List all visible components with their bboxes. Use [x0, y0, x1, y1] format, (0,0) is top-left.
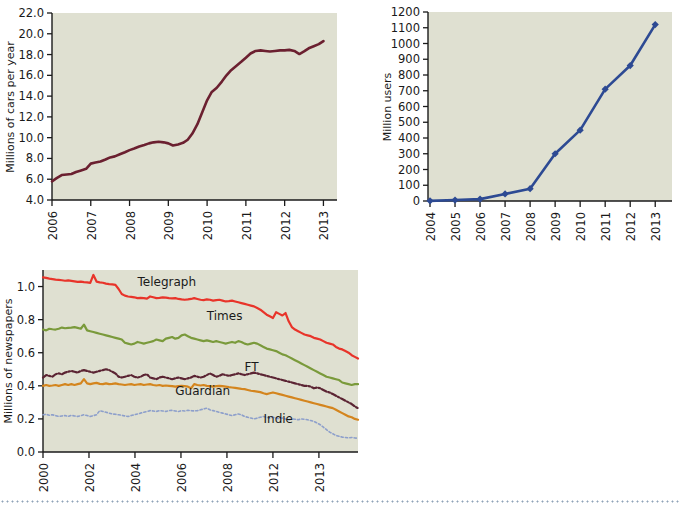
million-users-svg: 0100200300400500600700800900100011001200… [377, 0, 681, 250]
y-tick-label: 1.0 [17, 280, 35, 294]
y-tick-label: 14.0 [18, 89, 44, 103]
x-tick-label: 2008 [124, 211, 138, 240]
plot-background [428, 12, 672, 201]
y-tick-label: 1100 [391, 21, 420, 35]
x-tick-label: 2010 [201, 211, 215, 240]
y-tick-label: 0.4 [17, 379, 35, 393]
x-tick-label: 2013 [313, 463, 327, 492]
x-tick-label: 2012 [624, 212, 638, 241]
x-tick-label: 2002 [83, 463, 97, 492]
x-tick-label: 2004 [424, 212, 438, 241]
x-axis-ticks: 20062007200820092010201120122013 [46, 200, 331, 240]
y-axis-title: Millions of newspapers [2, 298, 15, 423]
y-tick-label: 1200 [391, 5, 420, 19]
y-axis-ticks: 4.06.08.010.012.014.016.018.020.022.0 [18, 6, 52, 207]
x-tick-label: 2009 [162, 211, 176, 240]
y-tick-label: 500 [398, 115, 420, 129]
chart-millions-of-newspapers: 0.00.20.40.60.81.0 200020022004200620082… [0, 262, 380, 507]
x-tick-label: 2010 [574, 212, 588, 241]
x-tick-label: 2012 [267, 463, 281, 492]
x-tick-label: 2006 [175, 463, 189, 492]
x-tick-label: 2007 [499, 212, 513, 241]
plot-background [52, 13, 337, 200]
chart-cars-per-year: 4.06.08.010.012.014.016.018.020.022.0 20… [0, 0, 350, 250]
y-tick-label: 16.0 [18, 68, 44, 82]
x-tick-label: 2011 [240, 211, 254, 240]
y-tick-label: 900 [398, 52, 420, 66]
y-tick-label: 600 [398, 100, 420, 114]
x-tick-label: 2013 [317, 211, 331, 240]
x-tick-label: 2006 [474, 212, 488, 241]
plot-background [43, 270, 358, 452]
y-tick-label: 8.0 [26, 151, 44, 165]
y-tick-label: 18.0 [18, 48, 44, 62]
x-tick-label: 2006 [46, 211, 60, 240]
y-axis-title: Million users [381, 72, 394, 141]
series-label-telegraph: Telegraph [137, 275, 197, 289]
y-tick-label: 0.2 [17, 412, 35, 426]
y-tick-label: 10.0 [18, 131, 44, 145]
y-tick-label: 4.0 [26, 193, 44, 207]
x-tick-label: 2004 [129, 463, 143, 492]
y-axis-ticks: 0.00.20.40.60.81.0 [17, 280, 43, 459]
y-tick-label: 22.0 [18, 6, 44, 20]
dotted-separator-rule [0, 500, 681, 503]
y-axis-ticks: 0100200300400500600700800900100011001200 [391, 5, 428, 208]
y-tick-label: 0.6 [17, 346, 35, 360]
y-tick-label: 6.0 [26, 172, 44, 186]
y-tick-label: 0.0 [17, 445, 35, 459]
x-axis-ticks: 2000200220042006200820122013 [37, 452, 327, 492]
y-tick-label: 800 [398, 68, 420, 82]
y-tick-label: 300 [398, 147, 420, 161]
series-label-ft: FT [245, 360, 260, 374]
y-tick-label: 0.8 [17, 313, 35, 327]
cars-per-year-svg: 4.06.08.010.012.014.016.018.020.022.0 20… [0, 0, 350, 250]
y-tick-label: 400 [398, 131, 420, 145]
x-tick-label: 2007 [85, 211, 99, 240]
x-tick-label: 2012 [279, 211, 293, 240]
x-tick-label: 2008 [221, 463, 235, 492]
chart-million-users: 0100200300400500600700800900100011001200… [377, 0, 681, 250]
y-tick-label: 100 [398, 178, 420, 192]
series-label-indie: Indie [264, 412, 293, 426]
series-label-guardian: Guardian [175, 384, 230, 398]
y-axis-title: Millions of cars per year [4, 41, 17, 173]
y-tick-label: 20.0 [18, 27, 44, 41]
x-tick-label: 2011 [599, 212, 613, 241]
y-tick-label: 1000 [391, 37, 420, 51]
y-tick-label: 200 [398, 163, 420, 177]
y-tick-label: 700 [398, 84, 420, 98]
x-tick-label: 2013 [649, 212, 663, 241]
x-tick-label: 2000 [37, 463, 51, 492]
x-axis-ticks: 2004200520062007200820092010201120122013 [424, 201, 663, 241]
x-tick-label: 2008 [524, 212, 538, 241]
x-tick-label: 2005 [449, 212, 463, 241]
newspapers-svg: 0.00.20.40.60.81.0 200020022004200620082… [0, 262, 380, 507]
y-tick-label: 12.0 [18, 110, 44, 124]
series-label-times: Times [206, 309, 243, 323]
y-tick-label: 0 [413, 194, 420, 208]
x-tick-label: 2009 [549, 212, 563, 241]
